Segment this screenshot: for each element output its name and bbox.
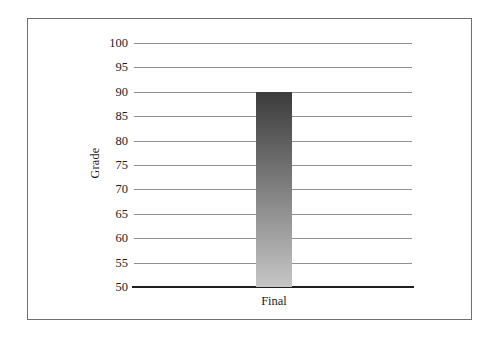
y-tick-label: 85 — [28, 108, 128, 124]
y-tick-label: 55 — [28, 255, 128, 271]
chart-frame: Grade 10095908580757065605550 Final — [27, 18, 472, 320]
gridline — [134, 67, 412, 68]
y-tick-label: 60 — [28, 230, 128, 246]
bar-final — [256, 92, 292, 287]
plot-area: 10095908580757065605550 — [28, 19, 471, 319]
y-tick-label: 80 — [28, 133, 128, 149]
y-tick-label: 100 — [28, 35, 128, 51]
x-tick-label-final: Final — [224, 294, 324, 309]
gridline — [134, 43, 412, 44]
y-tick-label: 70 — [28, 181, 128, 197]
y-tick-label: 65 — [28, 206, 128, 222]
y-tick-label: 90 — [28, 84, 128, 100]
y-tick-label: 50 — [28, 279, 128, 295]
y-tick-label: 95 — [28, 59, 128, 75]
y-tick-label: 75 — [28, 157, 128, 173]
